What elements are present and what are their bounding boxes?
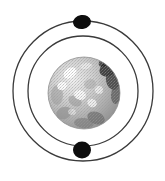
atom-diagram-canvas: Bohr model atom diagram Grayscale drawin…: [0, 0, 165, 181]
electron-bottom: [73, 142, 91, 159]
atom-diagram: Bohr model atom diagram Grayscale drawin…: [0, 0, 165, 181]
